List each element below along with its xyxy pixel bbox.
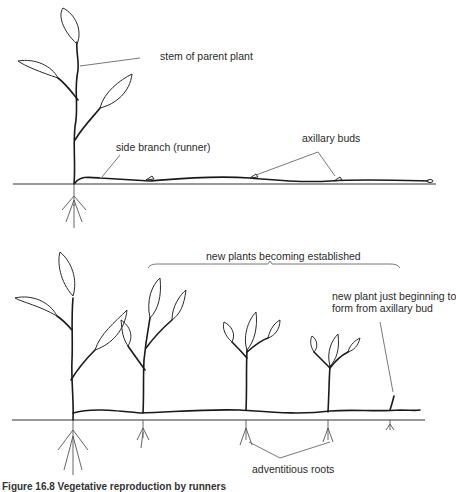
- label-roots: adventitious roots: [252, 463, 334, 475]
- leaf: [61, 8, 79, 44]
- top-panel: [13, 8, 436, 228]
- bottom-panel: [12, 252, 425, 475]
- new-plant-pointer: [380, 322, 393, 392]
- leaf: [18, 60, 58, 78]
- parent-stem-bottom: [72, 298, 73, 420]
- runner-pointer: [102, 155, 120, 177]
- axillary-bud: [334, 177, 342, 181]
- buds-pointer: [256, 152, 335, 176]
- label-buds: axillary buds: [302, 132, 360, 144]
- parent-stem: [74, 42, 78, 184]
- label-established: new plants becoming established: [206, 250, 361, 262]
- label-runner: side branch (runner): [116, 141, 211, 153]
- figure-caption: Figure 16.8 Vegetative reproduction by r…: [2, 481, 226, 492]
- stem-pointer: [80, 58, 140, 66]
- new-shoot: [390, 396, 394, 410]
- label-stem: stem of parent plant: [160, 50, 253, 62]
- leaf: [100, 74, 132, 108]
- label-new-plant: new plant just beginning to: [332, 290, 456, 302]
- label-new-plant-2: form from axillary bud: [332, 302, 433, 314]
- parent-roots: [62, 184, 86, 228]
- roots-pointer: [249, 442, 330, 458]
- established-brace: [148, 261, 400, 268]
- axillary-bud: [146, 176, 154, 180]
